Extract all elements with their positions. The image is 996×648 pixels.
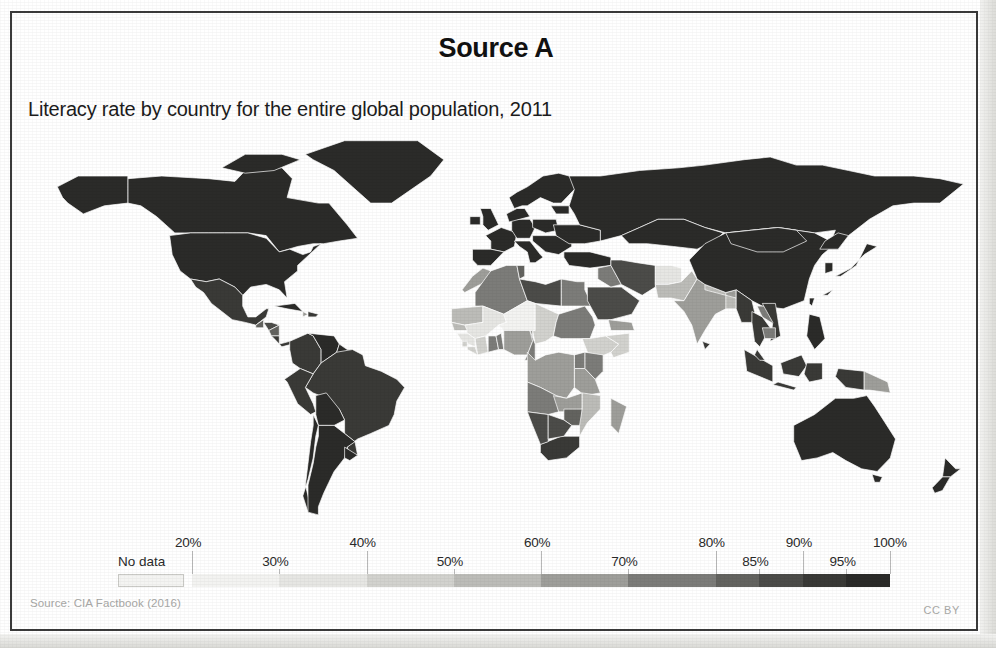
map-region-greenland: Greenland — 100% xyxy=(305,141,443,203)
legend-label-40: 40% xyxy=(350,535,376,550)
map-region-indonesia: Indonesia — 93% xyxy=(773,382,797,390)
map-region-cambodia: Cambodia — 74% xyxy=(762,328,775,339)
map-region-afghanistan: Afghanistan — 28% xyxy=(655,265,681,284)
legend-tick-80 xyxy=(716,551,717,574)
map-region-cote-d-ivoire: Cote d'Ivoire — 41% xyxy=(475,336,488,355)
legend-label-95: 95% xyxy=(829,554,855,569)
map-region-indonesia: Indonesia — 93% xyxy=(702,341,710,349)
legend-step-85-90 xyxy=(759,574,803,587)
legend-no-data-swatch xyxy=(118,574,184,587)
legend-step-90-95 xyxy=(803,574,847,587)
legend-label-30: 30% xyxy=(262,554,288,569)
map-region-canada: Canada — 99% xyxy=(222,154,300,173)
legend-no-data-label: No data xyxy=(118,554,165,569)
legend-label-50: 50% xyxy=(437,554,463,569)
map-region-philippines: Philippines — 96% xyxy=(807,314,825,349)
map-region-indonesia: Indonesia — 93% xyxy=(835,369,864,391)
map-region-mexico: Mexico — 94% xyxy=(271,336,279,344)
map-region-namibia: Namibia — 88% xyxy=(527,412,548,445)
map-region-sierra-leone: Sierra Leone — 43% xyxy=(462,341,467,347)
page-title: Source A xyxy=(12,33,980,64)
map-region-indonesia: Indonesia — 93% xyxy=(804,363,822,382)
map-region-australia: Australia — 99% xyxy=(794,396,896,472)
legend-label-70: 70% xyxy=(611,554,637,569)
legend-step-40-50 xyxy=(367,574,454,587)
legend-gradient-bar xyxy=(192,574,890,587)
map-region-yemen: Yemen — 65% xyxy=(608,320,634,331)
legend-tick-40 xyxy=(367,551,368,574)
legend-tick-100 xyxy=(890,551,891,574)
legend-label-20: 20% xyxy=(175,535,201,550)
legend-tick-20 xyxy=(192,551,193,574)
map-region-madagascar: Madagascar — 64% xyxy=(611,398,627,433)
legend-label-80: 80% xyxy=(699,535,725,550)
map-region-new-zealand: New Zealand — 99% xyxy=(932,477,950,493)
legend-step-30-40 xyxy=(279,574,366,587)
map-legend: No data 20%30%40%50%60%70%80%85%90%95%10… xyxy=(12,533,980,595)
world-choropleth-map: Greenland — 100%Canada — 99%Canada — 99%… xyxy=(26,138,966,523)
legend-tick-60 xyxy=(541,551,542,574)
map-region-australia: Australia — 99% xyxy=(872,474,882,482)
legend-tick-90 xyxy=(803,551,804,574)
map-region-south-korea: South Korea — 98% xyxy=(825,263,833,274)
figure-frame: Source A Literacy rate by country for th… xyxy=(10,11,978,631)
legend-label-100: 100% xyxy=(873,535,907,550)
legend-step-80-85 xyxy=(716,574,760,587)
legend-step-50-60 xyxy=(454,574,541,587)
map-region-haiti: Haiti — 61% xyxy=(303,312,308,317)
chart-subtitle: Literacy rate by country for the entire … xyxy=(28,98,552,121)
map-region-cuba: Cuba — 100% xyxy=(274,303,303,311)
world-map-svg: Greenland — 100%Canada — 99%Canada — 99%… xyxy=(26,138,966,523)
map-region-uganda: Uganda — 73% xyxy=(574,352,585,368)
map-region-mauritania: Mauritania — 52% xyxy=(452,306,483,325)
map-region-poland: Poland — 100% xyxy=(551,206,569,214)
legend-step-95-100 xyxy=(846,574,890,587)
map-region-poland: Poland — 100% xyxy=(509,173,577,208)
map-region-united-kingdom: United Kingdom — 99% xyxy=(470,217,480,225)
legend-step-20-30 xyxy=(192,574,279,587)
map-region-japan: Japan — 99% xyxy=(822,290,832,296)
legend-label-90: 90% xyxy=(786,535,812,550)
map-region-papua-new-guinea: Papua New Guinea — 62% xyxy=(864,371,890,393)
legend-step-70-80 xyxy=(628,574,715,587)
map-region-dominican-republic: Dominican Republic — 92% xyxy=(308,312,318,317)
map-region-united-kingdom: United Kingdom — 99% xyxy=(480,209,498,231)
license-note: CC BY xyxy=(923,604,960,616)
map-region-germany: Germany — 99% xyxy=(512,219,536,238)
legend-label-85: 85% xyxy=(742,554,768,569)
map-region-saudi-arabia: Saudi Arabia — 87% xyxy=(587,287,639,320)
map-region-china: China — 95% xyxy=(809,298,814,306)
map-region-nigeria: Nigeria — 60% xyxy=(504,331,533,355)
map-region-liberia: Liberia — 43% xyxy=(467,347,477,355)
source-note: Source: CIA Factbook (2016) xyxy=(30,597,181,609)
map-region-spain: Spain — 98% xyxy=(473,249,504,265)
map-region-turkey: Turkey — 95% xyxy=(564,252,611,268)
map-region-japan: Japan — 99% xyxy=(835,244,877,277)
map-region-sudan: Sudan — 72% xyxy=(553,306,595,339)
map-region-united-states: United States — 99% xyxy=(57,176,128,214)
map-region-chad: Chad — 40% xyxy=(533,303,559,344)
map-region-bangladesh: Bangladesh — 58% xyxy=(726,295,736,309)
scan-edge-bottom xyxy=(0,634,996,648)
legend-label-60: 60% xyxy=(524,535,550,550)
map-region-new-zealand: New Zealand — 99% xyxy=(943,458,961,477)
scan-edge-right xyxy=(980,0,996,648)
legend-step-60-70 xyxy=(541,574,628,587)
map-region-mozambique: Mozambique — 56% xyxy=(580,393,601,436)
map-region-indonesia: Indonesia — 93% xyxy=(781,355,807,377)
